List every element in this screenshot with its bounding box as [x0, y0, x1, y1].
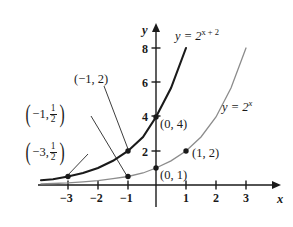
- fraction-denominator: 2: [50, 114, 57, 125]
- y-tick-label-6: 6: [142, 77, 148, 89]
- curve-base-label-exponent: x: [248, 98, 252, 108]
- fraction-one-half: 12: [50, 142, 57, 162]
- curve-shifted-label: y = 2x + 2: [175, 28, 219, 43]
- point-neg1-half: [125, 174, 130, 179]
- leader-lines: [67, 86, 128, 176]
- x-tick-label-neg2: −2: [90, 192, 103, 204]
- fraction-numerator: 1: [50, 104, 57, 114]
- left-paren-icon: (: [26, 104, 31, 125]
- point-label-neg3-half: (−3,12): [24, 142, 66, 163]
- y-tick-label-8: 8: [142, 43, 148, 55]
- curve-base-label: y = 2x: [222, 99, 252, 114]
- curve-shifted-label-text: y = 2: [175, 29, 201, 43]
- fraction-denominator: 2: [50, 152, 57, 163]
- x-tick-label-neg3: −3: [60, 192, 73, 204]
- x-axis-label: x: [277, 193, 283, 206]
- point-1-2: [183, 148, 188, 153]
- point-label-neg3-half-x: −3,: [32, 146, 48, 159]
- point-label-0-1: (0, 1): [160, 169, 187, 182]
- point-0-1: [153, 165, 158, 170]
- x-tick-label-neg1: −1: [120, 192, 133, 204]
- fraction-one-half: 12: [50, 104, 57, 124]
- point-label-neg1-2: (−1, 2): [74, 73, 108, 86]
- leader-neg1-half: [91, 116, 127, 176]
- point-label-neg1-half: (−1,12): [24, 104, 66, 125]
- y-axis-label: y: [142, 24, 148, 37]
- point-label-0-4: (0, 4): [160, 118, 187, 131]
- point-label-neg1-half-x: −1,: [32, 108, 48, 121]
- y-tick-label-4: 4: [142, 111, 148, 123]
- curve-shifted-label-exponent: x + 2: [201, 27, 219, 37]
- point-neg1-2: [125, 148, 130, 153]
- x-tick-label-1: 1: [183, 192, 189, 204]
- exponential-functions-graph: −3 −2 −1 1 2 3 2 4 6 8 x y y = 2x + 2 y …: [0, 0, 293, 227]
- x-tick-label-2: 2: [213, 192, 219, 204]
- leader-neg1-2: [104, 86, 128, 149]
- point-0-4: [153, 114, 158, 119]
- right-paren-icon: ): [59, 104, 64, 125]
- curve-base-label-text: y = 2: [222, 100, 248, 114]
- right-paren-icon: ): [59, 142, 64, 163]
- left-paren-icon: (: [26, 142, 31, 163]
- x-tick-label-3: 3: [243, 192, 249, 204]
- fraction-numerator: 1: [50, 142, 57, 152]
- y-tick-label-2: 2: [142, 146, 148, 158]
- point-label-1-2: (1, 2): [192, 147, 219, 160]
- point-neg3-half: [65, 174, 70, 179]
